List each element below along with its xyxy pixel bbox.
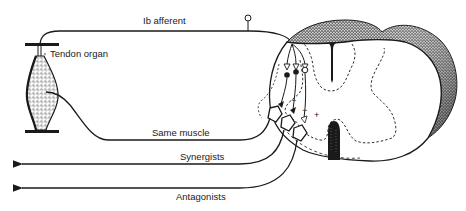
sign-inhibitory-2: − (302, 105, 307, 116)
diagram-canvas (0, 0, 466, 211)
label-same-muscle: Same muscle (152, 127, 210, 138)
inhibitory-interneuron-1 (284, 72, 290, 78)
label-ib-afferent: Ib afferent (143, 15, 186, 26)
inhibitory-interneuron-2 (293, 69, 299, 75)
top-tendon-bar (25, 43, 59, 46)
ib-reflex-diagram: Ib afferent Tendon organ Same muscle Syn… (0, 0, 466, 211)
label-antagonists: Antagonists (176, 191, 226, 202)
sign-excitatory: + (314, 110, 319, 121)
label-tendon-organ: Tendon organ (50, 48, 108, 59)
motor-axons (22, 92, 297, 188)
sign-inhibitory-1: − (291, 95, 296, 106)
label-synergists: Synergists (180, 151, 224, 162)
excitatory-interneuron (302, 67, 308, 73)
ganglion-cell-icon (245, 15, 251, 21)
